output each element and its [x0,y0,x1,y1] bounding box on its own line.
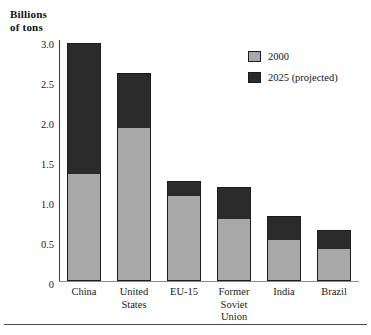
legend-label-2025-projected: 2025 (projected) [268,72,338,83]
bar-segment-2025 [267,216,301,240]
x-label-line-2: States [101,299,167,312]
bar-segment-2025 [167,181,201,196]
bar-segment-2025 [217,187,251,219]
y-axis-line [59,40,60,281]
x-label-line-3: Union [201,311,267,324]
bar-segment-2000 [267,240,301,281]
bar-segment-2025 [317,230,351,248]
bar-segment-2000 [67,174,101,281]
legend-item-2000[interactable]: 2000 [248,48,366,65]
bar-brazil[interactable] [317,230,351,281]
bar-united-states[interactable] [117,73,151,281]
bar-segment-2000 [117,128,151,281]
bar-segment-2000 [167,196,201,281]
bar-segment-2000 [317,249,351,281]
chart-legend: 2000 2025 (projected) [248,48,366,90]
legend-swatch-2025-projected [248,72,261,83]
y-axis-title-line-2: of tons [10,21,82,34]
y-axis-title-line-1: Billions [10,8,82,21]
x-label-brazil: Brazil [301,286,367,299]
bar-segment-2025 [67,43,101,174]
bar-segment-2025 [117,73,151,128]
y-tick-1-0: 1.0 [20,200,54,210]
bar-segment-2000 [217,219,251,281]
y-tick-2-0: 2.0 [20,120,54,130]
legend-item-2025-projected[interactable]: 2025 (projected) [248,69,366,86]
bottom-rule [4,324,367,325]
y-tick-0-5: 0.5 [20,240,54,250]
y-axis-title: Billions of tons [10,8,82,34]
bar-eu-15[interactable] [167,181,201,281]
y-tick-1-5: 1.5 [20,160,54,170]
y-axis-tick-labels: 3.0 2.5 2.0 1.5 1.0 0.5 0 [20,40,54,282]
bar-china[interactable] [67,43,101,281]
bar-india[interactable] [267,216,301,281]
legend-swatch-2000 [248,51,261,62]
x-label-line-2: Soviet [201,299,267,312]
x-axis-category-labels: China UnitedStates EU-15 FormerSovietUni… [59,286,359,328]
x-label-line-1: Brazil [301,286,367,299]
y-tick-3-0: 3.0 [20,40,54,50]
y-tick-0: 0 [20,280,54,290]
x-axis-baseline [59,281,359,282]
y-tick-2-5: 2.5 [20,80,54,90]
legend-label-2000: 2000 [268,51,289,62]
bar-former-soviet-union[interactable] [217,187,251,281]
chart-figure: Billions of tons 3.0 2.5 2.0 1.5 1.0 0.5… [0,0,371,335]
